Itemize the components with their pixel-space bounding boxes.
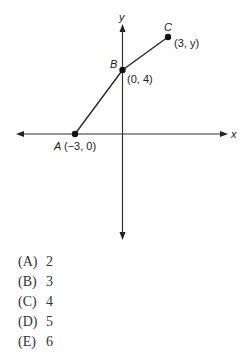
x-axis-left-arrow-icon <box>16 131 24 137</box>
answer-choice-d[interactable]: (D) 5 <box>18 312 53 332</box>
x-axis-label: x <box>230 128 237 140</box>
answer-choices: (A) 2 (B) 3 (C) 4 (D) 5 (E) 6 <box>18 252 53 352</box>
choice-letter: (A) <box>18 252 46 272</box>
point-b-coords: (0, 4) <box>127 73 153 85</box>
point-c-name: C <box>164 21 172 33</box>
answer-choice-e[interactable]: (E) 6 <box>18 332 53 352</box>
choice-value: 3 <box>46 272 53 292</box>
answer-choice-a[interactable]: (A) 2 <box>18 252 53 272</box>
y-axis: y <box>118 11 126 240</box>
point-c: C (3, y) <box>164 21 199 49</box>
y-axis-up-arrow-icon <box>120 24 126 32</box>
choice-letter: (B) <box>18 272 46 292</box>
y-axis-label: y <box>118 11 126 23</box>
choice-letter: (D) <box>18 312 46 332</box>
choice-value: 5 <box>46 312 53 332</box>
answer-choice-c[interactable]: (C) 4 <box>18 292 53 312</box>
coordinate-diagram: x y A (−3, 0) B (0, 4) C (3, y) <box>0 0 250 245</box>
point-b: B (0, 4) <box>110 58 153 85</box>
choice-letter: (C) <box>18 292 46 312</box>
choice-value: 4 <box>46 292 53 312</box>
choice-letter: (E) <box>18 332 46 352</box>
choice-value: 6 <box>46 332 53 352</box>
choice-value: 2 <box>46 252 53 272</box>
point-a-name: A <box>53 140 61 152</box>
segment-bc <box>123 37 169 70</box>
segment-ab <box>75 70 123 134</box>
point-a-coords: (−3, 0) <box>64 140 96 152</box>
point-b-name: B <box>110 58 117 70</box>
answer-choice-b[interactable]: (B) 3 <box>18 272 53 292</box>
x-axis-right-arrow-icon <box>220 131 228 137</box>
y-axis-down-arrow-icon <box>120 232 126 240</box>
x-axis: x <box>16 128 237 140</box>
point-c-coords: (3, y) <box>174 37 199 49</box>
